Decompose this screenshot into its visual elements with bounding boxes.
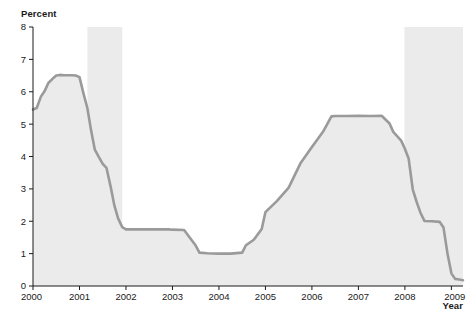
x-axis-title: Year (0, 300, 463, 311)
y-axis-tick-label: 7 (21, 54, 26, 65)
chart-plot-area: 012345678 200020012002200320042005200620… (0, 0, 468, 319)
y-axis-group: 012345678 (21, 21, 33, 291)
chart-container: Percent 012345678 2000200120022003200420… (0, 0, 468, 319)
y-axis-tick-label: 8 (21, 21, 26, 32)
y-axis-tick-label: 0 (21, 280, 26, 291)
y-axis-tick-label: 5 (21, 119, 26, 130)
y-axis-tick-label: 1 (21, 248, 26, 259)
y-axis-tick-label: 6 (21, 86, 26, 97)
y-axis-tick-label: 2 (21, 216, 26, 227)
y-axis-tick-label: 4 (21, 151, 26, 162)
y-axis-tick-label: 3 (21, 183, 26, 194)
